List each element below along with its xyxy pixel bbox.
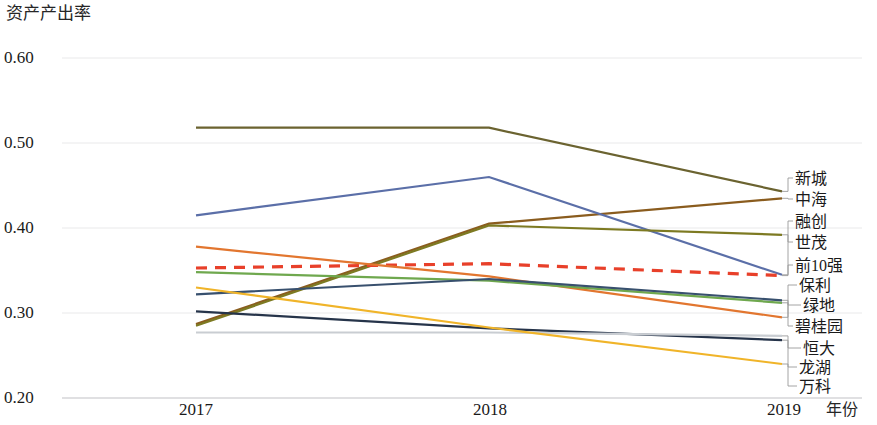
leader-line-6 [782,303,801,305]
chart-root: 资产产出率 0.60 0.50 0.40 0.30 0.20 2017 2018… [0,0,877,425]
legend-item-baoli[interactable]: 保利 [799,277,831,294]
leader-line-3 [782,235,793,242]
leader-line-5 [782,285,797,317]
legend-item-rongchuang[interactable]: 融创 [795,213,827,230]
series-line-0 [196,128,782,192]
legend-item-shimao[interactable]: 世茂 [795,234,827,251]
gridlines [62,58,862,398]
legend-item-biguiyuan[interactable]: 碧桂园 [795,318,843,335]
leader-line-4 [782,265,793,276]
leader-line-1 [782,198,793,199]
legend-item-longhu[interactable]: 龙湖 [799,359,831,376]
line-chart-canvas [0,0,877,425]
legend-item-xincheng[interactable]: 新城 [795,170,827,187]
series-line-5 [196,247,782,318]
legend-item-hengda[interactable]: 恒大 [803,340,835,357]
legend-item-lvdi[interactable]: 绿地 [803,297,835,314]
legend-item-vanke[interactable]: 万科 [799,378,831,395]
leader-line-8 [782,340,801,348]
series-layer [196,128,782,364]
legend-item-zhonghai[interactable]: 中海 [795,191,827,208]
series-line-9 [196,333,782,336]
leader-line-2 [782,221,793,275]
leader-line-0 [782,178,793,191]
series-line-10 [196,288,782,365]
legend-item-top10[interactable]: 前10强 [795,257,843,274]
